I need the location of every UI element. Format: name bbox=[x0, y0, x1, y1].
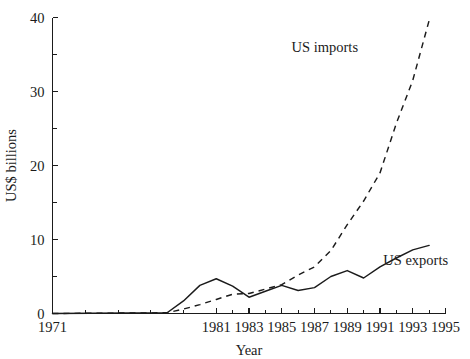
x-tick-label: 1971 bbox=[38, 319, 67, 335]
x-tick-label: 1993 bbox=[398, 319, 427, 335]
y-tick-label: 20 bbox=[30, 158, 45, 174]
x-tick-label: 1995 bbox=[431, 319, 460, 335]
tick-marks-group bbox=[53, 18, 446, 314]
y-tick-label: 40 bbox=[30, 10, 45, 26]
y-tick-label: 30 bbox=[30, 84, 45, 100]
x-tick-label: 1989 bbox=[333, 319, 362, 335]
series-line-us-exports bbox=[53, 245, 430, 313]
y-tick-label: 10 bbox=[30, 232, 45, 248]
series-line-us-imports bbox=[53, 20, 430, 313]
x-tick-label: 1987 bbox=[300, 319, 329, 335]
x-tick-label: 1983 bbox=[235, 319, 264, 335]
x-axis-title: Year bbox=[236, 342, 263, 358]
series-label-us-exports: US exports bbox=[383, 252, 448, 268]
data-series-group bbox=[53, 20, 430, 313]
line-chart: 0102030401971198119831985198719891991199… bbox=[0, 0, 470, 359]
x-tick-label: 1985 bbox=[267, 319, 296, 335]
axes-group bbox=[53, 18, 446, 314]
chart-container: 0102030401971198119831985198719891991199… bbox=[0, 0, 470, 359]
series-label-us-imports: US imports bbox=[292, 39, 359, 55]
x-tick-label: 1991 bbox=[366, 319, 395, 335]
y-axis-title: US$ billions bbox=[3, 129, 19, 202]
x-tick-label: 1981 bbox=[202, 319, 231, 335]
tick-labels-group: 0102030401971198119831985198719891991199… bbox=[30, 10, 460, 335]
series-annotations-group: US importsUS exports bbox=[292, 39, 449, 268]
